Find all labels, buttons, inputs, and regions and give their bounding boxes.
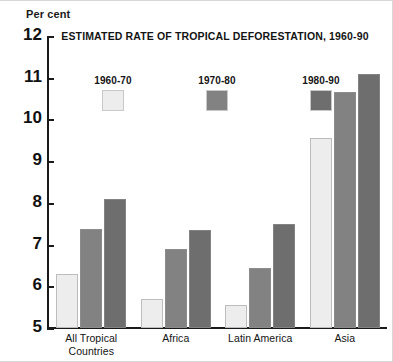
bar-group	[134, 36, 219, 328]
y-tick-label: 7	[33, 234, 42, 254]
x-axis-category-label: All TropicalCountries	[49, 332, 134, 358]
x-axis-category-label: Africa	[134, 332, 219, 345]
deforestation-bar-chart: Per cent ESTIMATED RATE OF TROPICAL DEFO…	[0, 0, 393, 362]
bar-group	[49, 36, 134, 328]
x-axis-labels: All TropicalCountriesAfricaLatin America…	[49, 332, 387, 362]
y-axis-unit-label: Per cent	[26, 8, 70, 20]
bars-layer	[49, 36, 387, 328]
bar	[80, 229, 102, 328]
bar	[358, 74, 380, 328]
bar-group	[303, 36, 388, 328]
bar-group	[218, 36, 303, 328]
bar	[104, 199, 126, 328]
bar	[189, 230, 211, 328]
y-tick-label: 11	[24, 67, 42, 87]
bar	[334, 92, 356, 328]
bar	[165, 249, 187, 328]
bar	[249, 268, 271, 328]
y-tick-label: 10	[23, 108, 42, 128]
bar	[273, 224, 295, 328]
bar	[310, 138, 332, 328]
y-tick-label: 12	[23, 25, 42, 45]
y-tick-label: 8	[33, 192, 42, 212]
x-axis-label-line: Countries	[49, 345, 134, 358]
x-axis-category-label: Latin America	[218, 332, 303, 345]
y-tick-label: 5	[33, 317, 42, 337]
x-axis-label-line: Latin America	[218, 332, 303, 345]
bar	[225, 305, 247, 328]
bar	[56, 274, 78, 328]
x-axis-label-line: All Tropical	[49, 332, 134, 345]
y-tick-label: 6	[33, 275, 42, 295]
x-axis-label-line: Asia	[303, 332, 388, 345]
bar	[141, 299, 163, 328]
y-tick-mark	[47, 328, 54, 330]
x-axis-label-line: Africa	[134, 332, 219, 345]
y-tick-label: 9	[33, 150, 42, 170]
x-axis-category-label: Asia	[303, 332, 388, 345]
